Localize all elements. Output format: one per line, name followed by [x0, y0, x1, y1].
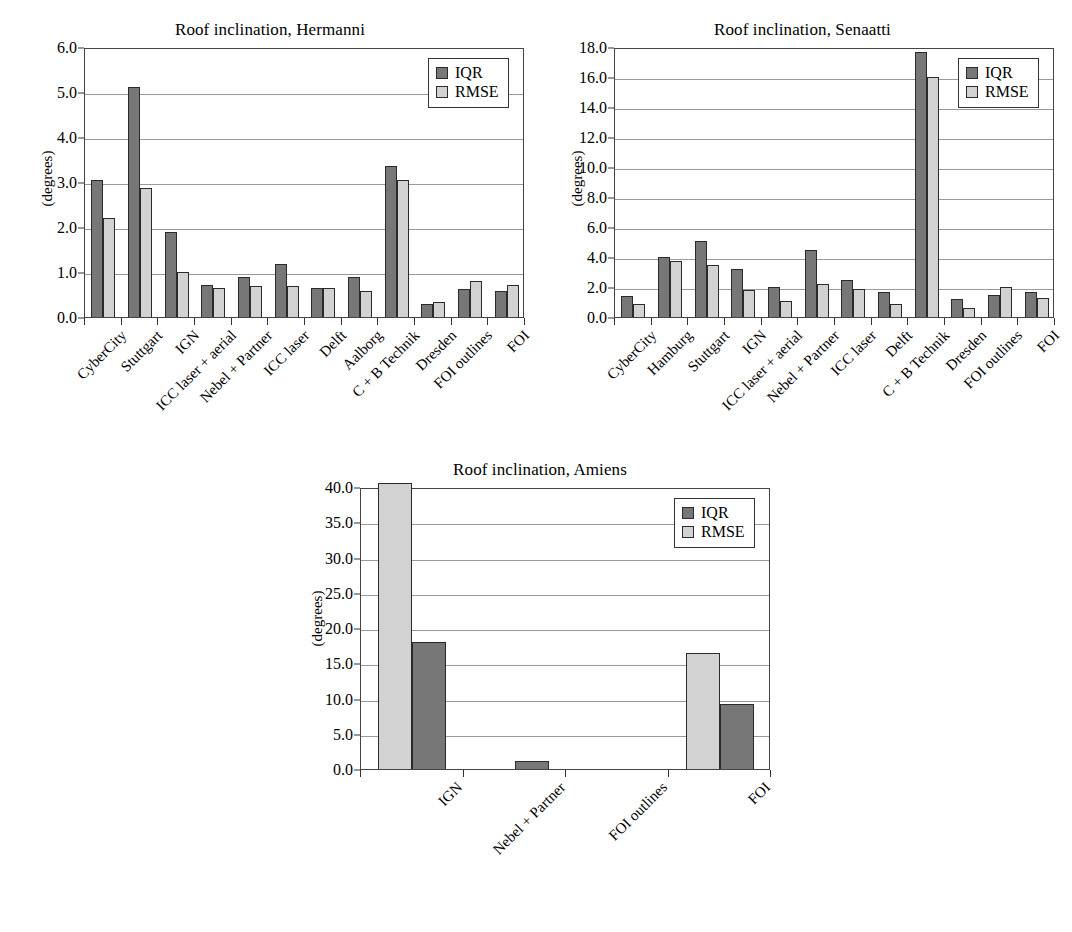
- legend-swatch-rmse-icon: [436, 86, 448, 98]
- legend-item-iqr: IQR: [682, 504, 745, 523]
- legend-item-rmse: RMSE: [966, 83, 1029, 102]
- legend-item-rmse: RMSE: [436, 83, 499, 102]
- legend-swatch-iqr-icon: [436, 67, 448, 79]
- y-tick-label: 25.0: [325, 586, 353, 602]
- x-tick-mark: [84, 318, 85, 325]
- y-axis-ticks-amiens: 0.05.010.015.020.025.030.035.040.0: [308, 460, 360, 920]
- bar-rmse: [927, 77, 939, 317]
- y-axis-ticks-senaatti: 0.02.04.06.08.010.012.014.016.018.0: [562, 20, 614, 440]
- y-tick-label: 0.0: [587, 310, 607, 326]
- chart-amiens: Roof inclination, Amiens (degrees) 0.05.…: [280, 460, 800, 920]
- chart-title-hermanni: Roof inclination, Hermanni: [10, 20, 530, 40]
- y-tick-label: 35.0: [325, 515, 353, 531]
- y-tick-label: 15.0: [325, 656, 353, 672]
- y-tick-label: 2.0: [587, 280, 607, 296]
- y-tick-label: 3.0: [57, 175, 77, 191]
- x-tick-mark: [360, 770, 361, 777]
- y-tick-label: 0.0: [57, 310, 77, 326]
- y-tick-label: 2.0: [57, 220, 77, 236]
- legend: IQRRMSE: [428, 58, 509, 108]
- legend-swatch-rmse-icon: [682, 526, 694, 538]
- bar-rmse: [103, 218, 115, 317]
- legend-label: RMSE: [455, 83, 499, 102]
- legend-swatch-rmse-icon: [966, 86, 978, 98]
- bar-iqr: [915, 52, 927, 318]
- y-tick-label: 14.0: [579, 100, 607, 116]
- legend-swatch-iqr-icon: [682, 507, 694, 519]
- y-tick-label: 16.0: [579, 70, 607, 86]
- bar-iqr: [128, 87, 140, 317]
- legend-item-iqr: IQR: [436, 64, 499, 83]
- bar-iqr: [720, 704, 754, 769]
- bar-iqr: [385, 166, 397, 317]
- chart-hermanni: Roof inclination, Hermanni (degrees) 0.0…: [10, 20, 530, 440]
- legend-item-rmse: RMSE: [682, 523, 745, 542]
- y-tick-label: 10.0: [579, 160, 607, 176]
- y-tick-label: 5.0: [57, 85, 77, 101]
- y-tick-label: 18.0: [579, 40, 607, 56]
- legend-label: IQR: [985, 64, 1013, 83]
- figure-root: Roof inclination, Hermanni (degrees) 0.0…: [0, 0, 1072, 932]
- y-axis-ticks-hermanni: 0.01.02.03.04.05.06.0: [32, 20, 84, 440]
- y-tick-label: 10.0: [325, 692, 353, 708]
- chart-senaatti: Roof inclination, Senaatti (degrees) 0.0…: [540, 20, 1065, 440]
- legend-label: RMSE: [985, 83, 1029, 102]
- y-tick-label: 1.0: [57, 265, 77, 281]
- bar-iqr: [515, 761, 549, 769]
- legend-swatch-iqr-icon: [966, 67, 978, 79]
- y-tick-label: 12.0: [579, 130, 607, 146]
- legend-label: IQR: [455, 64, 483, 83]
- y-tick-label: 4.0: [587, 250, 607, 266]
- y-tick-label: 40.0: [325, 480, 353, 496]
- chart-title-senaatti: Roof inclination, Senaatti: [540, 20, 1065, 40]
- bar-iqr: [91, 180, 103, 317]
- y-tick-label: 8.0: [587, 190, 607, 206]
- bar-iqr: [412, 642, 446, 769]
- y-tick-label: 0.0: [333, 762, 353, 778]
- y-tick-label: 6.0: [57, 40, 77, 56]
- y-tick-label: 4.0: [57, 130, 77, 146]
- y-tick-label: 30.0: [325, 551, 353, 567]
- legend-label: IQR: [701, 504, 729, 523]
- legend-item-iqr: IQR: [966, 64, 1029, 83]
- bar-rmse: [633, 304, 645, 318]
- legend-label: RMSE: [701, 523, 745, 542]
- y-tick-label: 20.0: [325, 621, 353, 637]
- legend: IQRRMSE: [674, 498, 755, 548]
- x-tick-mark: [614, 318, 615, 325]
- x-tick-label: FOI: [1051, 310, 1072, 339]
- legend: IQRRMSE: [958, 58, 1039, 108]
- bar-iqr: [621, 296, 633, 317]
- y-tick-label: 5.0: [333, 727, 353, 743]
- bar-rmse: [378, 483, 412, 769]
- y-tick-label: 6.0: [587, 220, 607, 236]
